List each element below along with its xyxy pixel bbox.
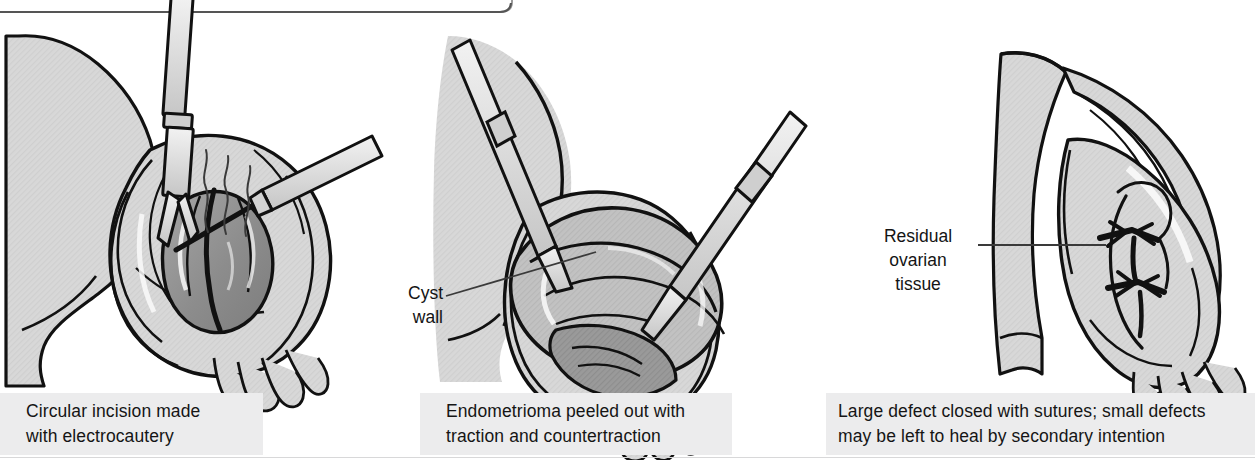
uterus-body-panel3 xyxy=(993,53,1066,374)
panel-1-caption: Circular incision made with electrocaute… xyxy=(0,393,263,455)
grasping-forceps-panel1[interactable] xyxy=(158,0,198,246)
panel-3-illustration xyxy=(978,53,1245,427)
top-cutoff-box xyxy=(0,0,512,12)
panel-3-caption: Large defect closed with sutures; small … xyxy=(826,393,1255,455)
callout-cyst-wall: Cyst wall xyxy=(385,281,443,329)
panel-1-illustration xyxy=(6,0,382,411)
bottom-divider xyxy=(0,457,1255,458)
callout-residual-ovarian-tissue: Residual ovarian tissue xyxy=(862,224,974,296)
surgical-figure: Cyst wall Residual ovarian tissue Circul… xyxy=(0,0,1255,460)
illustration-canvas xyxy=(0,0,1255,460)
panel-2-caption: Endometrioma peeled out with traction an… xyxy=(420,393,732,455)
